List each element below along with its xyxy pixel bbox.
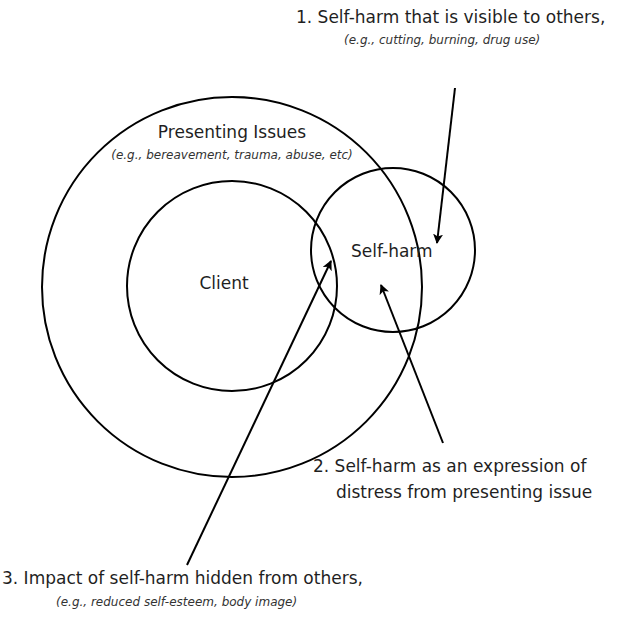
annotation-2-line1: 2. Self-harm as an expression of — [313, 456, 586, 476]
annotation-1-title: 1. Self-harm that is visible to others, — [296, 7, 605, 27]
annotation-3-title: 3. Impact of self-harm hidden from other… — [2, 568, 363, 588]
client-label: Client — [199, 273, 248, 293]
presenting-issues-title: Presenting Issues — [158, 122, 306, 142]
presenting-issues-subtitle: (e.g., bereavement, trauma, abuse, etc) — [111, 148, 353, 162]
annotation-1-subtitle: (e.g., cutting, burning, drug use) — [344, 33, 540, 47]
annotation-2-line2: distress from presenting issue — [336, 482, 592, 502]
venn-diagram — [0, 0, 633, 624]
arrow-1 — [437, 88, 455, 243]
annotation-3-subtitle: (e.g., reduced self-esteem, body image) — [56, 595, 297, 609]
arrow-2 — [381, 285, 443, 443]
self-harm-label: Self-harm — [351, 241, 433, 261]
arrow-3 — [187, 261, 331, 565]
